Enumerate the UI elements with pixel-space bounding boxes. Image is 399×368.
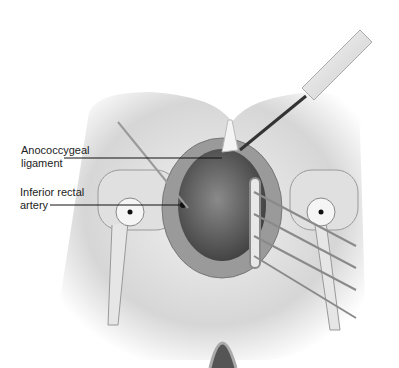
label-line: Inferior rectal	[20, 186, 84, 199]
label-line: ligament	[21, 157, 90, 170]
label-line: Anococcygeal	[21, 144, 90, 157]
label-inferior-rectal-artery: Inferior rectal artery	[20, 186, 84, 212]
illustration-svg	[0, 0, 399, 368]
label-line: artery	[20, 199, 84, 212]
surgical-illustration: Anococcygeal ligament Inferior rectal ar…	[0, 0, 399, 368]
label-anococcygeal-ligament: Anococcygeal ligament	[21, 144, 90, 170]
